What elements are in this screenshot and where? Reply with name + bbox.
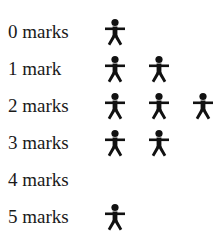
- pictogram-chart: 0 marks 1 mark 2 marks 3 marks 4 mar: [0, 0, 215, 236]
- row-label: 1 mark: [8, 57, 61, 81]
- row-1-mark: 1 mark: [0, 53, 215, 90]
- row-label: 4 marks: [8, 168, 69, 192]
- row-0-marks: 0 marks: [0, 16, 215, 53]
- person-icon: [148, 55, 170, 85]
- person-icon: [148, 92, 170, 122]
- row-4-marks: 4 marks: [0, 164, 215, 201]
- person-icon: [104, 18, 126, 48]
- person-icon: [148, 129, 170, 159]
- row-label: 0 marks: [8, 20, 69, 44]
- row-5-marks: 5 marks: [0, 201, 215, 236]
- row-label: 3 marks: [8, 131, 69, 155]
- row-label: 2 marks: [8, 94, 69, 118]
- row-2-marks: 2 marks: [0, 90, 215, 127]
- person-icon: [104, 55, 126, 85]
- row-3-marks: 3 marks: [0, 127, 215, 164]
- person-icon: [104, 129, 126, 159]
- person-icon: [104, 203, 126, 233]
- person-icon: [192, 92, 214, 122]
- row-label: 5 marks: [8, 205, 69, 229]
- person-icon: [104, 92, 126, 122]
